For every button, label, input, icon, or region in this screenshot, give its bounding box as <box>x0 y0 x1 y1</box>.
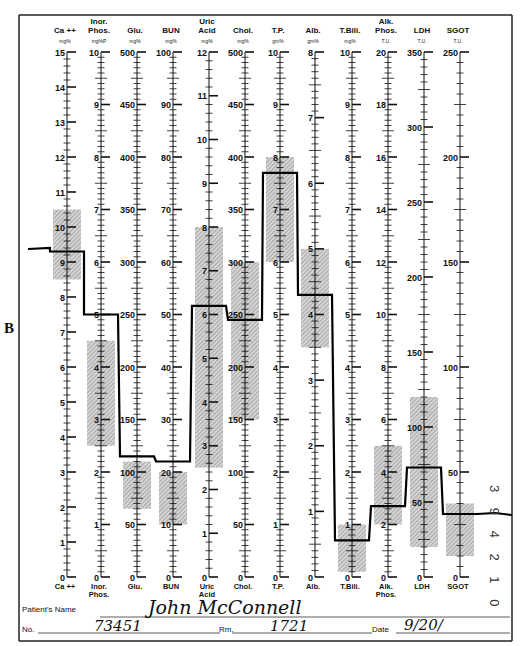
tick-label: 2 <box>308 441 313 451</box>
tick-label: 0 <box>202 573 207 583</box>
tick-label: 350 <box>228 205 243 215</box>
tick-label: 6 <box>94 258 99 268</box>
tick-label: 18 <box>376 100 386 110</box>
tick-label: 250 <box>120 310 135 320</box>
tick-label: 90 <box>161 100 171 110</box>
tick-label: 0 <box>345 573 350 583</box>
column-footer: Phos. <box>376 590 396 599</box>
tick-label: 4 <box>308 310 313 320</box>
tick-label: 9 <box>94 100 99 110</box>
tick-label: 8 <box>202 223 207 233</box>
column-unit: T.U. <box>454 38 463 44</box>
tick-label: 8 <box>345 153 350 163</box>
tick-label: 3 <box>94 415 99 425</box>
column-title: Alb. <box>305 26 320 35</box>
tick-label: 7 <box>308 113 313 123</box>
scale-tbili: 012345678910T.Bili.mg%T.Bili. <box>340 26 361 591</box>
patient-name-value: John McConnell <box>148 596 302 618</box>
tick-label: 5 <box>60 398 65 408</box>
tick-label: 0 <box>308 573 313 583</box>
tick-label: 0 <box>94 573 99 583</box>
tick-label: 10 <box>55 223 65 233</box>
column-title: BUN <box>162 26 180 35</box>
tick-label: 8 <box>308 48 313 58</box>
tick-label: 0 <box>238 573 243 583</box>
tick-label: 400 <box>228 153 243 163</box>
tick-label: 40 <box>161 363 171 373</box>
tick-label: 4 <box>381 468 386 478</box>
tick-label: 30 <box>161 415 171 425</box>
tick-label: 0 <box>60 573 65 583</box>
tick-label: 0 <box>130 573 135 583</box>
column-footer: Chol. <box>234 582 253 591</box>
chart-frame <box>19 15 512 641</box>
tick-label: 150 <box>120 415 135 425</box>
column-unit: gm% <box>307 38 319 44</box>
tick-label: 500 <box>228 48 243 58</box>
room-value: 1721 <box>270 617 308 635</box>
column-title: Glu. <box>127 26 143 35</box>
column-title: Chol. <box>233 26 253 35</box>
tick-label: 2 <box>202 485 207 495</box>
scale-ip: 012345678910Inor.Phos.mg%PInor.Phos. <box>88 17 110 599</box>
column-title: Ca ++ <box>54 26 76 35</box>
tick-label: 4 <box>202 398 207 408</box>
column-footer: Ca ++ <box>55 582 76 591</box>
column-footer: T.P. <box>272 582 284 591</box>
tick-label: 10 <box>89 48 99 58</box>
tick-label: 60 <box>161 258 171 268</box>
tick-label: 250 <box>228 310 243 320</box>
tick-label: 10 <box>161 520 171 530</box>
column-unit: mg% <box>344 38 356 44</box>
side-code: 3 9 4 2 1 0 <box>487 485 502 612</box>
tick-label: 9 <box>202 179 207 189</box>
column-title: Inor. <box>91 17 108 26</box>
tick-label: 250 <box>407 198 422 208</box>
column-unit: T.U. <box>382 38 391 44</box>
column-title: LDH <box>414 26 431 35</box>
tick-label: 0 <box>453 573 458 583</box>
tick-label: 6 <box>60 363 65 373</box>
tick-label: 50 <box>233 520 243 530</box>
tick-label: 14 <box>376 205 386 215</box>
tick-label: 500 <box>120 48 135 58</box>
tick-label: 200 <box>228 363 243 373</box>
column-unit: mg% <box>201 38 213 44</box>
column-title: T.Bili. <box>340 26 361 35</box>
column-footer: LDH <box>414 582 429 591</box>
tick-label: 3 <box>60 468 65 478</box>
column-unit: mg% <box>165 38 177 44</box>
tick-label: 50 <box>161 310 171 320</box>
tick-label: 50 <box>412 498 422 508</box>
tick-label: 1 <box>308 507 313 517</box>
tick-label: 150 <box>407 348 422 358</box>
room-label: Rm. <box>219 625 234 634</box>
tick-label: 2 <box>94 468 99 478</box>
tick-label: 3 <box>273 415 278 425</box>
tick-label: 11 <box>55 188 65 198</box>
tick-label: 2 <box>345 468 350 478</box>
tick-label: 16 <box>376 153 386 163</box>
tick-label: 7 <box>60 328 65 338</box>
tick-label: 6 <box>273 258 278 268</box>
tick-label: 50 <box>125 520 135 530</box>
tick-label: 13 <box>55 118 65 128</box>
tick-label: 250 <box>443 48 458 58</box>
tick-label: 7 <box>273 205 278 215</box>
tick-label: 150 <box>443 258 458 268</box>
tick-label: 450 <box>228 100 243 110</box>
tick-label: 6 <box>345 258 350 268</box>
tick-label: 2 <box>273 468 278 478</box>
tick-label: 10 <box>376 310 386 320</box>
tick-label: 0 <box>417 573 422 583</box>
tick-label: 450 <box>120 100 135 110</box>
tick-label: 6 <box>202 310 207 320</box>
tick-label: 70 <box>161 205 171 215</box>
tick-label: 2 <box>60 503 65 513</box>
tick-label: 14 <box>55 83 65 93</box>
tick-label: 350 <box>407 48 422 58</box>
column-title: T.P. <box>272 26 285 35</box>
tick-label: 12 <box>55 153 65 163</box>
tick-label: 100 <box>228 468 243 478</box>
tick-label: 300 <box>228 258 243 268</box>
